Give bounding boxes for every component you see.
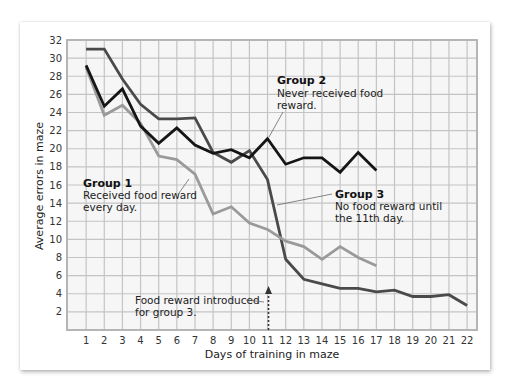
y-tick-label: 8: [56, 252, 62, 263]
x-tick-label: 22: [461, 335, 474, 346]
group-3-desc-line2: the 11th day.: [335, 212, 404, 224]
y-tick-label: 14: [49, 198, 62, 209]
x-tick-label: 16: [352, 335, 365, 346]
y-tick-label: 24: [49, 107, 62, 118]
x-tick-label: 10: [243, 335, 256, 346]
x-tick-label: 15: [334, 335, 347, 346]
group-2-title: Group 2: [277, 74, 326, 87]
x-tick-label: 1: [83, 335, 89, 346]
group-1-desc-line2: every day.: [83, 201, 137, 213]
y-tick-label: 6: [56, 270, 62, 281]
y-axis-title: Average errors in maze: [33, 122, 46, 250]
line-chart: 2468101214161820222426283032 12345678910…: [0, 0, 506, 386]
group-2-desc-line1: Never received food: [277, 87, 383, 99]
x-tick-label: 12: [279, 335, 292, 346]
x-tick-label: 8: [210, 335, 216, 346]
y-tick-label: 10: [49, 234, 62, 245]
y-tick-label: 28: [49, 71, 62, 82]
y-tick-label: 12: [49, 216, 62, 227]
group-2-desc-line2: reward.: [277, 99, 317, 111]
x-axis-ticks: 12345678910111213141516171819202122: [83, 335, 473, 346]
x-tick-label: 6: [174, 335, 180, 346]
food-reward-line1: Food reward introduced: [135, 294, 260, 306]
x-tick-label: 20: [424, 335, 437, 346]
x-tick-label: 3: [119, 335, 125, 346]
x-tick-label: 2: [101, 335, 107, 346]
group-3-desc-line1: No food reward until: [335, 200, 442, 212]
x-tick-label: 19: [406, 335, 419, 346]
y-axis-ticks: 2468101214161820222426283032: [49, 35, 62, 318]
y-tick-label: 20: [49, 143, 62, 154]
y-tick-label: 26: [49, 89, 62, 100]
x-tick-label: 18: [388, 335, 401, 346]
group-1-desc-line1: Received food reward: [83, 189, 197, 201]
x-axis-title: Days of training in maze: [205, 348, 340, 361]
x-tick-label: 14: [316, 335, 329, 346]
x-tick-label: 7: [192, 335, 198, 346]
x-tick-label: 17: [370, 335, 383, 346]
x-tick-label: 13: [297, 335, 310, 346]
food-reward-line2: for group 3.: [135, 306, 197, 318]
y-tick-label: 2: [56, 306, 62, 317]
x-tick-label: 11: [261, 335, 274, 346]
y-tick-label: 16: [49, 180, 62, 191]
x-tick-label: 5: [156, 335, 162, 346]
y-tick-label: 18: [49, 161, 62, 172]
y-tick-label: 22: [49, 125, 62, 136]
x-tick-label: 4: [137, 335, 143, 346]
y-tick-label: 4: [56, 288, 62, 299]
x-tick-label: 9: [228, 335, 234, 346]
x-tick-label: 21: [443, 335, 456, 346]
y-tick-label: 32: [49, 35, 62, 46]
y-tick-label: 30: [49, 53, 62, 64]
